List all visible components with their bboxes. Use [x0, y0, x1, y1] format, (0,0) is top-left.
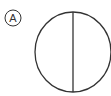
label-letter: A	[9, 12, 17, 24]
figure-diagram: A	[0, 0, 111, 96]
divided-circle	[35, 12, 111, 92]
label-badge: A	[5, 10, 21, 26]
